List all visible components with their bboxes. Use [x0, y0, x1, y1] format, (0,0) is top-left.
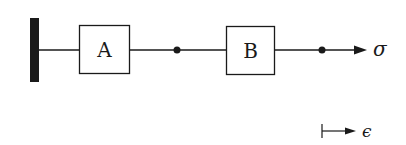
element-b-label: B [243, 39, 258, 63]
diagram-svg: A B σ ϵ [0, 0, 406, 145]
output-node [319, 47, 326, 54]
element-b: B [227, 27, 275, 75]
strain-label: ϵ [362, 121, 372, 141]
stress-arrow-head [354, 46, 367, 55]
strain-indicator: ϵ [322, 121, 372, 141]
fixed-wall [30, 18, 39, 82]
junction-node [174, 47, 181, 54]
strain-arrow-head [345, 128, 356, 135]
element-a-label: A [96, 38, 112, 62]
stress-label: σ [373, 37, 388, 61]
element-a: A [80, 26, 130, 74]
rheology-diagram: A B σ ϵ [0, 0, 406, 145]
